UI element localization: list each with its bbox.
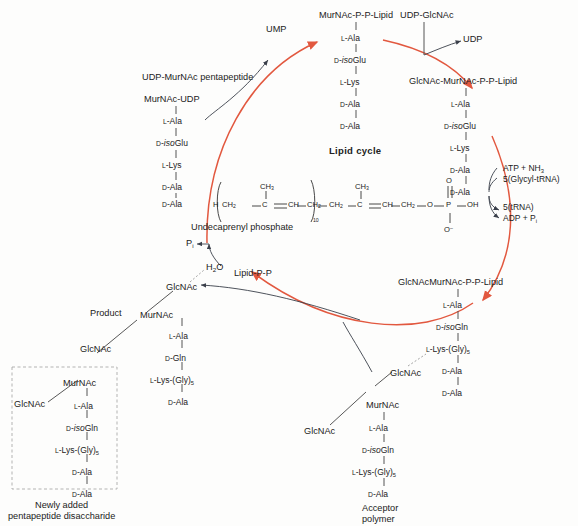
node-product-murnac-low: MurNAc bbox=[63, 378, 96, 388]
node-pi: Pi bbox=[186, 238, 194, 251]
chain-f-res-5: D-Ala bbox=[72, 489, 92, 500]
undec-c-a: C bbox=[262, 200, 267, 210]
node-glcnac-murnac-pp-lipid: GlcNAc-MurNAc-P-P-Lipid bbox=[409, 76, 517, 86]
chain-d-res-1: L-Ala bbox=[369, 423, 388, 434]
undec-oh: OH bbox=[467, 200, 478, 210]
node-h2o: H2O bbox=[206, 262, 223, 275]
chain-c-res-5: D-Ala bbox=[442, 388, 462, 399]
chain-f-res-4: D-Ala bbox=[72, 467, 92, 478]
chain-b-res-3: L-Lys bbox=[450, 143, 470, 154]
undec-o-double: O bbox=[446, 176, 452, 186]
caption-product: Product bbox=[90, 308, 122, 318]
reaction-trna: 5(tRNA) bbox=[503, 202, 534, 212]
chain-f-res-2: D-isoGln bbox=[66, 423, 98, 434]
reaction-adp-pi: ADP + Pi bbox=[503, 213, 537, 226]
caption-acceptor-1: Acceptor bbox=[362, 503, 398, 513]
chain-c-res-3: L-Lys-(Gly)5 bbox=[426, 344, 470, 357]
chain-b-res-4: D-Ala bbox=[450, 165, 470, 176]
undec-ch2-d: CH2 bbox=[401, 200, 415, 211]
undec-o-link: O bbox=[427, 200, 433, 210]
chain-e-res-4: D-Ala bbox=[168, 397, 188, 408]
undec-c-b: C bbox=[357, 200, 362, 210]
undec-p: P bbox=[446, 200, 451, 210]
undec-ch3-b: CH3 bbox=[355, 182, 369, 193]
undec-ch2-c: CH2 bbox=[329, 200, 343, 211]
node-product-glcnac-low: GlcNAc bbox=[14, 399, 45, 409]
chain-b-res-5: D-Ala bbox=[450, 187, 470, 198]
undec-ch-a: CH bbox=[288, 200, 299, 210]
chain-c-res-2: D-isoGln bbox=[436, 322, 468, 333]
caption-newly-added-2: pentapeptide disaccharide bbox=[8, 511, 115, 521]
chain-d-res-3: L-Lys-(Gly)5 bbox=[352, 467, 396, 480]
undec-ch3-a: CH3 bbox=[260, 182, 274, 193]
chain-b-res-1: L-Ala bbox=[451, 99, 470, 110]
node-acceptor-murnac: MurNAc bbox=[366, 400, 399, 410]
undec-ch2-b: CH2 bbox=[307, 200, 321, 211]
node-glcnacmurnac-pp-lipid: GlcNAcMurNAc-P-P-Lipid bbox=[398, 277, 503, 287]
chain-c-res-4: D-Ala bbox=[442, 366, 462, 377]
figure-title: Lipid cycle bbox=[329, 146, 381, 156]
caption-acceptor-2: polymer bbox=[362, 514, 395, 524]
node-product-glcnac-mid: GlcNAc bbox=[80, 344, 111, 354]
undec-ch2-a: CH2 bbox=[222, 200, 236, 211]
node-product-murnac-top: MurNAc bbox=[140, 310, 173, 320]
lipid-cycle-diagram: MurNAc-P-P-Lipid L-Ala D-isoGlu L-Lys D-… bbox=[0, 0, 578, 526]
chain-c-res-1: L-Ala bbox=[443, 300, 462, 311]
chain-e-res-3: L-Lys-(Gly)5 bbox=[150, 375, 194, 388]
undec-o-minus: O– bbox=[444, 223, 453, 235]
undec-subscript-n: 10 bbox=[313, 214, 319, 225]
chain-e-res-2: D-Gln bbox=[165, 353, 186, 364]
node-acceptor-glcnac: GlcNAc bbox=[390, 368, 421, 378]
chain-f-res-1: L-Ala bbox=[74, 401, 93, 412]
undec-ch-b: CH bbox=[382, 200, 393, 210]
node-acceptor-glcnac-2: GlcNAc bbox=[304, 426, 335, 436]
undec-h: H bbox=[213, 200, 218, 210]
node-lipid-pp: Lipid-P-P bbox=[234, 268, 272, 278]
chain-e-res-1: L-Ala bbox=[169, 331, 188, 342]
reaction-glycyl-trna: 5(Glycyl-tRNA) bbox=[503, 174, 560, 184]
caption-newly-added-1: Newly added bbox=[35, 500, 88, 510]
chain-d-res-2: D-isoGln bbox=[362, 445, 394, 456]
chain-b-res-2: D-isoGlu bbox=[444, 121, 476, 132]
node-product-glcnac-top: GlcNAc bbox=[166, 282, 197, 292]
caption-undecaprenyl: Undecaprenyl phosphate bbox=[191, 222, 293, 232]
chain-f-res-3: L-Lys-(Gly)5 bbox=[55, 445, 99, 458]
chain-d-res-4: D-Ala bbox=[368, 489, 388, 500]
